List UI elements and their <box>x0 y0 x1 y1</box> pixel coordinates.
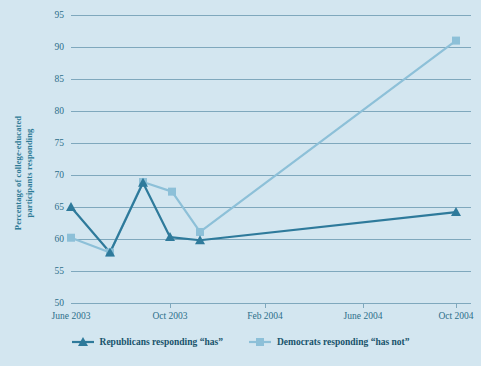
triangle-marker-icon <box>72 336 94 348</box>
y-tick-label: 65 <box>55 202 65 212</box>
x-tick-mark <box>363 303 364 308</box>
y-tick-label: 55 <box>55 266 65 276</box>
chart-legend: Republicans responding “has”Democrats re… <box>0 336 481 348</box>
square-marker-icon <box>168 188 176 196</box>
x-tick-label: June 2003 <box>52 311 91 321</box>
x-tick-mark <box>170 303 171 308</box>
x-tick-mark <box>265 303 266 308</box>
y-axis-title-text: Percentage of college-educated participa… <box>13 93 35 253</box>
x-tick-mark <box>456 303 457 308</box>
y-tick-label: 95 <box>55 10 65 20</box>
chart-root: Percentage of college-educated participa… <box>0 0 481 366</box>
plot-area: 50556065707580859095 June 2003Oct 2003Fe… <box>71 15 471 303</box>
square-marker-icon <box>249 336 271 348</box>
data-series-svg <box>71 15 471 303</box>
y-tick-label: 85 <box>55 74 65 84</box>
y-tick-label: 70 <box>55 170 65 180</box>
triangle-marker-icon <box>66 202 76 211</box>
y-axis-title: Percentage of college-educated participa… <box>13 0 39 95</box>
square-marker-icon <box>196 228 204 236</box>
series-line <box>71 183 456 253</box>
gridline <box>71 303 471 304</box>
y-tick-label: 90 <box>55 42 65 52</box>
x-tick-label: Oct 2003 <box>152 311 187 321</box>
legend-label: Democrats responding “has not” <box>277 337 410 347</box>
legend-label: Republicans responding “has” <box>100 337 223 347</box>
square-marker-icon <box>452 37 460 45</box>
legend-item[interactable]: Republicans responding “has” <box>72 336 223 348</box>
x-tick-label: June 2004 <box>344 311 383 321</box>
series-line <box>71 41 456 253</box>
x-tick-label: Feb 2004 <box>247 311 283 321</box>
x-tick-label: Oct 2004 <box>438 311 473 321</box>
y-tick-label: 80 <box>55 106 65 116</box>
y-tick-label: 75 <box>55 138 65 148</box>
square-marker-icon <box>67 234 75 242</box>
y-tick-label: 60 <box>55 234 65 244</box>
legend-item[interactable]: Democrats responding “has not” <box>249 336 410 348</box>
y-tick-label: 50 <box>55 298 65 308</box>
